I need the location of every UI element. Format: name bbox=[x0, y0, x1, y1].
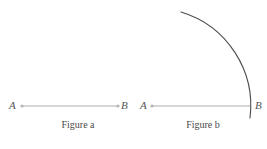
figure-b-label-a: A bbox=[140, 100, 147, 111]
figure-b-point-a bbox=[150, 104, 153, 107]
geometry-diagram: A B A B Figure a Figure b bbox=[0, 0, 267, 149]
figure-a-caption: Figure a bbox=[42, 119, 114, 130]
figure-b-label-b: B bbox=[255, 100, 262, 111]
figure-b-arc bbox=[181, 12, 251, 118]
figure-a-point-b bbox=[116, 104, 119, 107]
figure-a-point-a bbox=[20, 104, 23, 107]
figure-b-caption: Figure b bbox=[167, 119, 239, 130]
figure-a-label-b: B bbox=[121, 100, 128, 111]
figure-a-label-a: A bbox=[9, 100, 16, 111]
